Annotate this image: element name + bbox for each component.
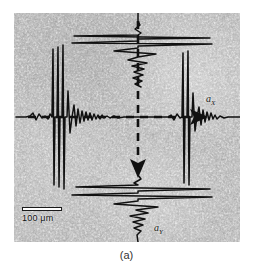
figure-panel: 100 μm aX aY (a) bbox=[0, 0, 253, 274]
trace-ay-bottom bbox=[72, 169, 212, 242]
acoustic-micrograph-image: 100 μm aX aY bbox=[14, 13, 240, 242]
trace-ay-top bbox=[72, 13, 212, 87]
scale-bar: 100 μm bbox=[22, 207, 62, 223]
scale-bar-label: 100 μm bbox=[22, 213, 62, 223]
label-a-y-subscript: Y bbox=[159, 228, 163, 236]
label-a-y: aY bbox=[154, 222, 163, 236]
figure-caption: (a) bbox=[0, 249, 253, 261]
label-a-x: aX bbox=[206, 93, 215, 107]
label-a-x-subscript: X bbox=[211, 99, 215, 107]
y-direction-arrow bbox=[130, 21, 146, 178]
scale-bar-line bbox=[22, 207, 62, 211]
